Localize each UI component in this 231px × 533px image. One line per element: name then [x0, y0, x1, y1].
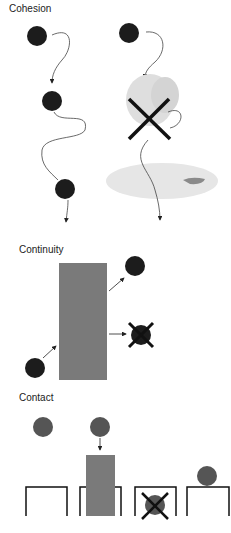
continuity-diagram [25, 256, 153, 380]
table-shape [26, 487, 67, 516]
cohesion-right-sequence [106, 23, 218, 220]
ball-icon [197, 466, 217, 486]
ball-icon [90, 417, 110, 437]
ball-icon [27, 26, 47, 46]
diagram-canvas [0, 0, 231, 533]
ball-icon [55, 179, 75, 199]
ball-icon [119, 23, 139, 43]
cohesion-left-sequence [27, 26, 86, 222]
contact-diagram [26, 417, 229, 519]
barrier-block [86, 455, 115, 516]
ball-icon [33, 417, 53, 437]
ball-icon [125, 256, 145, 276]
ball-icon [42, 91, 62, 111]
ball-icon [25, 358, 45, 378]
barrier-block [59, 263, 107, 380]
table-shape [187, 487, 229, 516]
